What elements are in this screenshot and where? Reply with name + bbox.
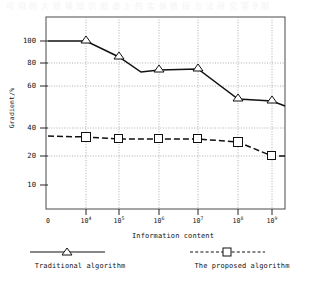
y-tick-label-10: 10 xyxy=(16,181,36,188)
x-tick-label-1e6: 106 xyxy=(146,218,172,225)
x-axis-ticks xyxy=(86,209,272,215)
plot-canvas xyxy=(0,0,309,284)
y-axis-title: Gradient/% xyxy=(8,82,16,134)
x-tick-1-exp: 4 xyxy=(89,216,92,221)
vertical-gridlines xyxy=(86,17,272,209)
x-tick-label-1e7: 107 xyxy=(185,218,211,225)
x-tick-6-exp: 9 xyxy=(275,216,278,221)
x-tick-0-base: 0 xyxy=(46,217,50,225)
x-tick-3-base: 10 xyxy=(154,217,162,225)
legend-label-traditional-algorithm: Traditional algorithm xyxy=(22,262,138,271)
x-tick-5-exp: 8 xyxy=(241,216,244,221)
x-tick-label-1e5: 105 xyxy=(106,218,132,225)
chart-figure: 100 80 60 40 20 10 0 104 105 106 107 108… xyxy=(0,0,309,284)
x-tick-5-base: 10 xyxy=(233,217,241,225)
x-tick-4-exp: 7 xyxy=(201,216,204,221)
x-tick-label-1e4: 104 xyxy=(73,218,99,225)
series-traditional-algorithm-line xyxy=(48,41,285,106)
y-tick-label-60: 60 xyxy=(16,82,36,89)
x-tick-3-exp: 6 xyxy=(162,216,165,221)
x-tick-1-base: 10 xyxy=(81,217,89,225)
y-tick-label-40: 40 xyxy=(16,124,36,131)
y-tick-label-100: 100 xyxy=(16,37,36,44)
x-tick-2-base: 10 xyxy=(114,217,122,225)
x-tick-label-0: 0 xyxy=(35,218,61,225)
y-tick-label-20: 20 xyxy=(16,152,36,159)
x-tick-6-base: 10 xyxy=(267,217,275,225)
x-tick-4-base: 10 xyxy=(193,217,201,225)
x-tick-label-1e9: 109 xyxy=(259,218,285,225)
y-tick-label-80: 80 xyxy=(16,59,36,66)
legend-left-sample xyxy=(30,248,105,255)
y-axis-ticks xyxy=(40,41,48,185)
legend-right-sample xyxy=(190,248,265,256)
x-tick-2-exp: 5 xyxy=(122,216,125,221)
horizontal-gridlines xyxy=(46,63,285,156)
x-axis-title: Information content xyxy=(118,232,228,240)
plot-frame xyxy=(46,17,285,209)
x-tick-label-1e8: 108 xyxy=(225,218,251,225)
legend-label-proposed-algorithm: The proposed algorithm xyxy=(180,262,304,271)
